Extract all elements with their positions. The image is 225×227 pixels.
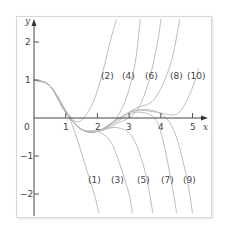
solution-curves-chart: 0 1 2 3 4 5 x 2 1 −1 −2 y (2) (4) (6) (8… — [0, 0, 225, 227]
x-axis-arrow-icon — [201, 116, 208, 121]
curve-label-4: (4) — [122, 71, 135, 81]
curve-label-8: (8) — [170, 71, 183, 81]
curve-label-3: (3) — [111, 175, 124, 185]
curve-label-9: (9) — [183, 175, 196, 185]
curve-label-5: (5) — [137, 175, 150, 185]
y-axis-label: y — [24, 16, 31, 26]
tick-label-ym2: −2 — [20, 189, 33, 199]
solution-curve-5 — [34, 80, 153, 213]
curve-label-10: (10) — [187, 71, 205, 81]
curve-label-1: (1) — [88, 175, 101, 185]
tick-label-ym1: −1 — [20, 151, 33, 161]
tick-label-x0: 0 — [24, 122, 30, 132]
y-axis-arrow-icon — [32, 19, 37, 26]
tick-label-y2: 2 — [25, 37, 31, 47]
tick-label-y1: 1 — [25, 75, 31, 85]
solution-curve-1 — [34, 80, 99, 213]
tick-label-x5: 5 — [190, 122, 196, 132]
curve-label-6: (6) — [145, 71, 158, 81]
tick-label-x2: 2 — [95, 122, 101, 132]
curve-label-7: (7) — [161, 175, 174, 185]
curve-label-2: (2) — [101, 71, 114, 81]
tick-label-x3: 3 — [126, 122, 132, 132]
tick-label-x1: 1 — [63, 122, 69, 132]
tick-label-x4: 4 — [158, 122, 164, 132]
solution-curve-7 — [34, 80, 177, 213]
solution-curve-3 — [34, 80, 132, 213]
x-axis-label: x — [203, 122, 208, 132]
